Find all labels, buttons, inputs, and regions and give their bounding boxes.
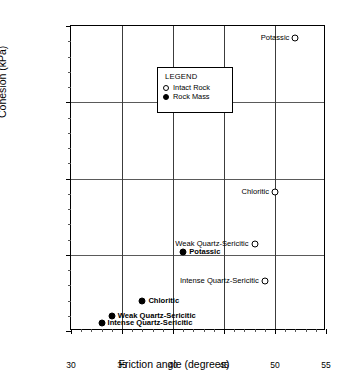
x-tick-label: 30 — [51, 361, 91, 370]
x-tick-minor — [163, 329, 164, 332]
y-tick-minor — [68, 285, 71, 286]
y-tick-major — [66, 102, 71, 103]
x-tick-major — [326, 329, 327, 334]
x-tick-minor — [306, 329, 307, 332]
data-point-marker — [139, 297, 146, 304]
legend-item-intact-rock: Intact Rock — [163, 84, 227, 91]
data-point-label: Potassic — [261, 34, 290, 42]
x-tick-major — [275, 329, 276, 334]
x-tick-minor — [285, 329, 286, 332]
plot-area: 05000100001500020000 303540455055 Potass… — [70, 25, 325, 330]
y-tick-minor — [68, 209, 71, 210]
y-tick-minor — [68, 148, 71, 149]
x-tick-minor — [132, 329, 133, 332]
x-tick-minor — [234, 329, 235, 332]
x-tick-major — [122, 329, 123, 334]
x-tick-minor — [142, 329, 143, 332]
y-tick-minor — [68, 118, 71, 119]
x-tick-label: 35 — [102, 361, 142, 370]
x-tick-minor — [255, 329, 256, 332]
x-tick-minor — [204, 329, 205, 332]
y-tick-minor — [68, 163, 71, 164]
data-point-marker — [272, 189, 279, 196]
x-tick-label: 50 — [255, 361, 295, 370]
y-tick-minor — [68, 41, 71, 42]
data-point-marker — [180, 249, 187, 256]
gridline-horizontal — [71, 179, 324, 180]
y-tick-minor — [68, 72, 71, 73]
scatter-chart-figure: Cohesion (kPa) Friction angle (degrees) … — [0, 0, 348, 386]
x-tick-major — [71, 329, 72, 334]
y-tick-minor — [68, 133, 71, 134]
legend-label-intact-rock: Intact Rock — [173, 84, 210, 91]
legend-item-rock-mass: Rock Mass — [163, 93, 227, 100]
x-tick-minor — [112, 329, 113, 332]
data-point-label: Chloritic — [242, 188, 269, 196]
x-tick-minor — [193, 329, 194, 332]
data-point-marker — [261, 277, 268, 284]
x-tick-minor — [265, 329, 266, 332]
x-tick-minor — [214, 329, 215, 332]
y-tick-major — [66, 26, 71, 27]
y-tick-minor — [68, 301, 71, 302]
y-tick-minor — [68, 87, 71, 88]
y-tick-major — [66, 179, 71, 180]
x-tick-minor — [81, 329, 82, 332]
data-point-label: Potassic — [189, 249, 220, 257]
y-tick-minor — [68, 240, 71, 241]
gridline-vertical — [275, 26, 276, 329]
data-point-label: Chloritic — [148, 297, 179, 305]
y-tick-minor — [68, 316, 71, 317]
y-tick-minor — [68, 224, 71, 225]
y-tick-minor — [68, 57, 71, 58]
x-tick-minor — [316, 329, 317, 332]
legend-label-rock-mass: Rock Mass — [173, 93, 210, 100]
x-tick-minor — [183, 329, 184, 332]
data-point-label: Intense Quartz-Sericitic — [180, 277, 259, 285]
x-tick-major — [173, 329, 174, 334]
x-tick-major — [224, 329, 225, 334]
legend-title: LEGEND — [165, 72, 227, 81]
x-tick-label: 55 — [306, 361, 346, 370]
open-circle-marker-icon — [163, 85, 169, 91]
gridline-vertical — [122, 26, 123, 329]
x-tick-label: 45 — [204, 361, 244, 370]
filled-circle-marker-icon — [163, 94, 169, 100]
y-tick-minor — [68, 270, 71, 271]
x-tick-minor — [244, 329, 245, 332]
y-axis-title: Cohesion (kPa) — [0, 46, 8, 118]
y-tick-major — [66, 255, 71, 256]
x-tick-minor — [295, 329, 296, 332]
x-tick-minor — [153, 329, 154, 332]
legend-box: LEGEND Intact Rock Rock Mass — [157, 67, 233, 113]
x-tick-minor — [91, 329, 92, 332]
data-point-label: Intense Quartz-Sericitic — [108, 320, 193, 328]
data-point-marker — [98, 320, 105, 327]
x-tick-label: 40 — [153, 361, 193, 370]
y-tick-minor — [68, 194, 71, 195]
data-point-marker — [292, 35, 299, 42]
data-point-marker — [251, 241, 258, 248]
x-tick-minor — [102, 329, 103, 332]
